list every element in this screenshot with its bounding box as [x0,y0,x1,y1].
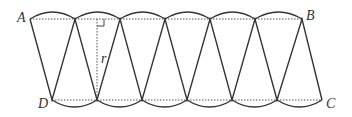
vertex-label-a: A [17,10,26,26]
sector-outlines [30,12,322,107]
sector-parallelogram-diagram: A B C D r [0,0,352,117]
vertex-label-d: D [38,96,48,112]
right-angle-marker [97,19,104,26]
vertex-label-c: C [326,96,335,112]
radius-label: r [101,51,106,67]
diagram-figure [0,0,352,117]
vertex-label-b: B [306,8,315,24]
